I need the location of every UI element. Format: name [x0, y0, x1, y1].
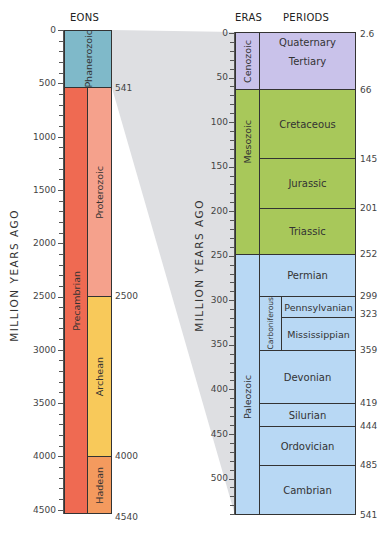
- boundary-label: 323: [360, 309, 377, 319]
- boundary-label: 4000: [115, 451, 138, 461]
- period-label: Silurian: [289, 410, 327, 421]
- left-tick-label: 3500: [26, 398, 56, 408]
- period-label: Cambrian: [283, 485, 332, 496]
- boundary-label: 201: [360, 203, 377, 213]
- period-cenozoic-group: Quaternary Tertiary: [259, 32, 356, 90]
- left-tick-label: 3000: [26, 345, 56, 355]
- left-tick-label: 2000: [26, 238, 56, 248]
- era-cenozoic: Cenozoic: [235, 32, 260, 90]
- era-label: Mesozoic: [242, 120, 253, 163]
- eon-label: Archean: [94, 357, 105, 396]
- left-tick-label: 4000: [26, 451, 56, 461]
- left-tick-label: 1000: [26, 132, 56, 142]
- boundary-label: 541: [115, 83, 132, 93]
- eon-label: Hadean: [94, 467, 105, 504]
- right-tick-label: 0: [198, 28, 228, 38]
- period-mississippian: Mississippian: [281, 317, 356, 351]
- right-tick-label: 250: [198, 250, 228, 260]
- boundary-label: 541: [360, 510, 377, 520]
- period-jurassic: Jurassic: [259, 158, 356, 209]
- period-label: Carboniferous: [266, 297, 275, 350]
- right-tick-label: 450: [198, 429, 228, 439]
- right-tick-label: 200: [198, 206, 228, 216]
- left-axis-title-wrap: MILLION YEARS AGO: [8, 200, 20, 350]
- boundary-label: 419: [360, 398, 377, 408]
- period-cretaceous: Cretaceous: [259, 89, 356, 159]
- period-permian: Permian: [259, 254, 356, 297]
- supereon-precambrian: Precambrian: [64, 87, 88, 514]
- boundary-label: 145: [360, 154, 377, 164]
- boundary-label: 66: [360, 85, 371, 95]
- eon-archean: Archean: [87, 296, 112, 457]
- period-label: Ordovician: [281, 441, 335, 452]
- eon-proterozoic: Proterozoic: [87, 87, 112, 297]
- period-quaternary: Quaternary: [279, 37, 336, 48]
- right-tick-label: 50: [198, 72, 228, 82]
- left-tick-label: 2500: [26, 291, 56, 301]
- right-tick-label: 500: [198, 473, 228, 483]
- period-devonian: Devonian: [259, 350, 356, 404]
- left-tick-label: 1500: [26, 185, 56, 195]
- period-label: Cretaceous: [279, 119, 335, 130]
- era-label: Cenozoic: [242, 40, 253, 83]
- period-carboniferous: Carboniferous: [259, 296, 282, 351]
- period-label: Devonian: [284, 372, 331, 383]
- right-tick-label: 300: [198, 295, 228, 305]
- era-mesozoic: Mesozoic: [235, 89, 260, 255]
- period-label: Jurassic: [288, 178, 326, 189]
- eon-phanerozoic: Phanerozoic: [64, 30, 112, 88]
- period-label: Permian: [287, 270, 328, 281]
- eon-hadean: Hadean: [87, 456, 112, 514]
- right-tick-label: 350: [198, 339, 228, 349]
- left-axis-title: MILLION YEARS AGO: [8, 209, 20, 342]
- boundary-label: 299: [360, 291, 377, 301]
- eon-label: Phanerozoic: [83, 30, 94, 88]
- right-tick-label: 100: [198, 117, 228, 127]
- period-tertiary: Tertiary: [289, 56, 327, 67]
- right-axis-title: MILLION YEARS AGO: [193, 199, 205, 332]
- eon-label: Proterozoic: [94, 166, 105, 219]
- eons-header: EONS: [70, 12, 99, 23]
- boundary-label: 359: [360, 345, 377, 355]
- boundary-label: 4540: [115, 512, 138, 522]
- period-cambrian: Cambrian: [259, 465, 356, 515]
- era-paleozoic: Paleozoic: [235, 254, 260, 515]
- boundary-label: 485: [360, 460, 377, 470]
- left-tick-label: 500: [26, 78, 56, 88]
- boundary-label: 2500: [115, 291, 138, 301]
- period-pennsylvanian: Pennsylvanian: [281, 296, 356, 318]
- left-tick-label: 0: [26, 25, 56, 35]
- supereon-label: Precambrian: [71, 271, 82, 331]
- right-tick-label: 400: [198, 384, 228, 394]
- period-label: Triassic: [289, 226, 325, 237]
- boundary-label: 2.6: [360, 29, 374, 39]
- era-label: Paleozoic: [242, 375, 253, 419]
- boundary-label: 444: [360, 421, 377, 431]
- boundary-label: 252: [360, 249, 377, 259]
- right-tick-label: 150: [198, 161, 228, 171]
- period-triassic: Triassic: [259, 208, 356, 255]
- left-tick-label: 4500: [26, 505, 56, 515]
- period-ordovician: Ordovician: [259, 426, 356, 466]
- period-label: Pennsylvanian: [284, 302, 352, 313]
- period-label: Mississippian: [287, 329, 349, 340]
- period-silurian: Silurian: [259, 403, 356, 427]
- eras-header: ERAS: [235, 12, 262, 23]
- periods-header: PERIODS: [283, 12, 329, 23]
